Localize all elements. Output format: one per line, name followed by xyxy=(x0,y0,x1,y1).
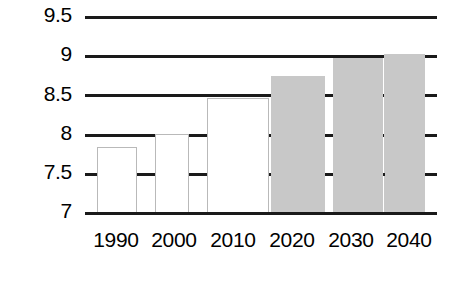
bar-2020 xyxy=(271,76,325,212)
gridline-tick-7-5-a xyxy=(85,173,97,176)
bar-2040 xyxy=(384,54,425,212)
gridline-tick-7-5-e xyxy=(325,173,333,176)
x-tick-label-2020: 2020 xyxy=(261,228,323,251)
y-tick-label: 7 xyxy=(2,200,72,221)
gridline-tick-8-a xyxy=(325,134,333,137)
bar-2000 xyxy=(155,134,189,212)
gridline-tick-8-5-b xyxy=(425,94,437,97)
gridline-tick-7-5-c xyxy=(189,173,207,176)
x-tick-label-1990: 1990 xyxy=(85,228,147,251)
y-tick-label: 8 xyxy=(2,122,72,143)
bar-1990 xyxy=(97,147,137,212)
x-tick-label-2010: 2010 xyxy=(202,228,264,251)
gridline-tick-9-a xyxy=(425,55,437,58)
x-axis-baseline xyxy=(85,212,437,215)
y-tick-label: 9.5 xyxy=(2,4,72,25)
x-tick-label-2000: 2000 xyxy=(143,228,205,251)
y-tick-label: 8.5 xyxy=(2,83,72,104)
x-tick-label-2030: 2030 xyxy=(320,228,382,251)
gridline-tick-7-5-f xyxy=(383,173,385,176)
plot-area xyxy=(85,16,437,212)
gridline-tick-7-5-g xyxy=(425,173,437,176)
bar-2030 xyxy=(333,58,383,212)
gridline-tick-7-5-d xyxy=(269,173,271,176)
bar-chart: 9.5 9 8.5 8 7.5 7 xyxy=(0,0,460,283)
y-tick-label: 9 xyxy=(2,43,72,64)
gridline-tick-8-b xyxy=(425,134,437,137)
y-tick-label: 7.5 xyxy=(2,161,72,182)
x-axis-labels: 1990 2000 2010 2020 2030 2040 xyxy=(85,228,437,268)
x-tick-label-2040: 2040 xyxy=(378,228,440,251)
bar-2010 xyxy=(207,98,269,212)
gridline-9-5 xyxy=(85,16,437,19)
gridline-tick-7-5-b xyxy=(137,173,155,176)
gridline-tick-8-5-a xyxy=(325,94,333,97)
